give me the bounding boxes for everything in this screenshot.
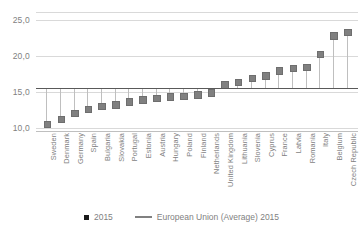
x-tick-label: Austria bbox=[159, 133, 166, 157]
square-marker bbox=[112, 101, 120, 109]
x-tick-label: Netherlands bbox=[213, 133, 220, 174]
legend-item-eu-average[interactable]: European Union (Average) 2015 bbox=[135, 212, 279, 222]
legend-label: European Union (Average) 2015 bbox=[157, 212, 279, 222]
square-marker bbox=[276, 67, 284, 75]
drop-line bbox=[347, 32, 348, 88]
y-tick-label: 10,0 bbox=[0, 124, 30, 132]
x-tick-label: Romania bbox=[309, 133, 316, 163]
x-tick-label: Bulgaria bbox=[104, 133, 111, 161]
x-tick-label: Denmark bbox=[63, 133, 70, 164]
square-marker bbox=[126, 98, 134, 106]
gridline bbox=[36, 12, 358, 13]
x-tick-label: Hungary bbox=[172, 133, 179, 162]
chart-container: 25,0 20,0 15,0 10,0 SwedenDenmarkGermany… bbox=[0, 0, 363, 243]
gridline bbox=[36, 20, 358, 21]
drop-line bbox=[60, 88, 61, 119]
square-marker bbox=[208, 89, 216, 97]
square-marker bbox=[330, 32, 338, 40]
x-tick-label: Italy bbox=[322, 133, 329, 147]
square-marker bbox=[153, 95, 161, 103]
square-marker-icon bbox=[84, 215, 89, 220]
x-tick-label: Finland bbox=[200, 133, 207, 158]
y-tick-label: 15,0 bbox=[0, 88, 30, 96]
x-tick-label: Slovakia bbox=[118, 133, 125, 162]
square-marker bbox=[98, 103, 106, 111]
square-marker bbox=[167, 93, 175, 101]
legend-label: 2015 bbox=[94, 212, 113, 222]
x-tick-label: Lithuania bbox=[241, 133, 248, 164]
square-marker bbox=[194, 91, 202, 99]
square-marker bbox=[85, 106, 93, 114]
square-marker bbox=[235, 79, 243, 87]
x-tick-label: United Kingdom bbox=[227, 133, 234, 187]
legend-item-2015[interactable]: 2015 bbox=[84, 212, 113, 222]
x-tick-label: Cyprus bbox=[268, 133, 275, 157]
square-marker bbox=[139, 96, 147, 104]
y-tick-label: 20,0 bbox=[0, 52, 30, 60]
drop-line bbox=[319, 54, 320, 88]
x-tick-label: Belgium bbox=[336, 133, 343, 160]
x-tick-label: Portugal bbox=[131, 133, 138, 161]
chart-legend: 2015 European Union (Average) 2015 bbox=[0, 212, 363, 222]
line-marker-icon bbox=[135, 216, 152, 218]
square-marker bbox=[290, 65, 298, 73]
square-marker bbox=[180, 93, 188, 101]
square-marker bbox=[344, 29, 352, 37]
y-tick-label: 25,0 bbox=[0, 16, 30, 24]
eu-average-line bbox=[36, 88, 358, 90]
x-tick-label: Czech Republic bbox=[350, 133, 357, 186]
x-tick-label: Latvia bbox=[295, 133, 302, 153]
square-marker bbox=[249, 75, 257, 83]
gridline bbox=[36, 128, 358, 129]
square-marker bbox=[303, 64, 311, 72]
square-marker bbox=[262, 72, 270, 80]
square-marker bbox=[44, 121, 52, 129]
x-axis-labels: SwedenDenmarkGermanySpainBulgariaSlovaki… bbox=[36, 133, 358, 205]
drop-line bbox=[46, 88, 47, 124]
drop-line bbox=[333, 35, 334, 88]
x-tick-label: Spain bbox=[90, 133, 97, 152]
x-tick-label: Estonia bbox=[145, 133, 152, 158]
x-tick-label: Sweden bbox=[50, 133, 57, 160]
x-tick-label: Slovenia bbox=[254, 133, 261, 162]
square-marker bbox=[58, 116, 66, 124]
x-axis-line bbox=[36, 131, 358, 132]
square-marker bbox=[71, 110, 79, 118]
x-tick-label: France bbox=[281, 133, 288, 157]
square-marker bbox=[317, 51, 325, 59]
plot-area bbox=[36, 12, 358, 131]
x-tick-label: Poland bbox=[186, 133, 193, 157]
x-tick-label: Germany bbox=[77, 133, 84, 164]
gridline bbox=[36, 56, 358, 57]
